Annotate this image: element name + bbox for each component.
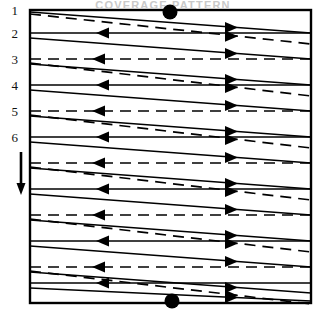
level-label-1: 1 [0,4,18,17]
depth-arrow-head [17,183,26,195]
figure-canvas: COVERAGE PATTERN 123456 [0,0,326,315]
level-label-4: 4 [0,79,18,92]
field-boundary-rect [30,10,311,303]
depth-direction-arrow-group [17,152,26,195]
level-label-5: 5 [0,105,18,118]
entry-point-dot [163,5,178,20]
level-label-6: 6 [0,131,18,144]
level-label-3: 3 [0,53,18,66]
exit-point-dot [165,294,180,309]
coverage-path-diagram [0,0,326,315]
level-label-2: 2 [0,27,18,40]
